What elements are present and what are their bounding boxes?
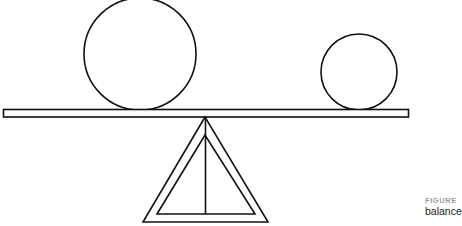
small-circle-weight: [321, 34, 397, 110]
figure-caption-text: balance: [425, 205, 462, 217]
figure-label: FIGURE: [425, 196, 462, 205]
large-circle-weight: [84, 0, 196, 110]
figure-caption: FIGURE balance: [425, 196, 462, 217]
seesaw-plank: [4, 110, 409, 118]
